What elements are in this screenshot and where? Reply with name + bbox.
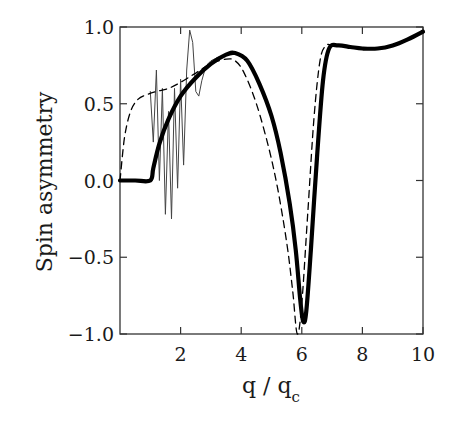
x-tick-labels: 246810 (175, 343, 436, 365)
x-axis-title: q / qc (242, 373, 300, 406)
x-tick-label: 4 (235, 343, 247, 365)
y-tick-label: 0.5 (84, 93, 114, 115)
y-tick-labels: 1.00.50.0−0.5−1.0 (68, 16, 114, 345)
x-tick-label: 8 (356, 343, 368, 365)
series-solid-thick-line (120, 32, 423, 323)
x-tick-label: 2 (175, 343, 187, 365)
series-solid-thin-line (150, 30, 226, 219)
axis-ticks (120, 27, 423, 334)
x-tick-label: 10 (411, 343, 435, 365)
data-series (120, 30, 423, 334)
y-axis-title: Spin asymmetry (32, 91, 57, 272)
y-tick-label: 0.0 (84, 170, 114, 192)
y-tick-label: −1.0 (68, 323, 114, 345)
y-tick-label: −0.5 (68, 246, 114, 268)
plot-frame (120, 27, 423, 334)
y-tick-label: 1.0 (84, 16, 114, 38)
spin-asymmetry-chart: 1.00.50.0−0.5−1.0 246810 Spin asymmetry … (0, 0, 454, 427)
x-tick-label: 6 (296, 343, 308, 365)
